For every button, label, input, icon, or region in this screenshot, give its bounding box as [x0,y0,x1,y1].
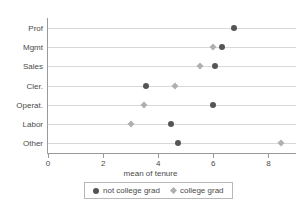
y-axis-category-label: Prof [0,24,43,33]
dot-chart: e mean of tenure not college gradcollege… [0,0,301,208]
y-axis-category-label: Operat. [0,101,43,110]
data-point-marker [231,25,237,31]
x-axis-label: mean of tenure [0,169,301,178]
y-axis-category-label: Labor [0,120,43,129]
x-axis-tick-mark [158,154,159,158]
legend-circle-icon [93,188,99,194]
x-axis-tick-mark [213,154,214,158]
x-axis-tick-label: 6 [211,159,215,168]
x-axis-tick-label: 8 [266,159,270,168]
legend-diamond-icon [170,187,177,194]
chart-legend: not college gradcollege grad [84,182,233,199]
data-point-marker [141,101,148,108]
data-point-marker [210,102,216,108]
x-axis-tick-mark [103,154,104,158]
plot-area [48,18,296,153]
x-axis-line [47,153,296,154]
data-point-marker [210,43,217,50]
gridline-row [48,28,296,29]
data-point-marker [212,63,218,69]
y-axis-category-label: Mgmt [0,43,43,52]
x-axis-tick-mark [48,154,49,158]
legend-entry[interactable]: college grad [171,186,224,195]
data-point-marker [196,63,203,70]
data-point-marker [277,140,284,147]
x-axis-tick-label: 4 [156,159,160,168]
gridline-row [48,105,296,106]
data-point-marker [219,44,225,50]
data-point-marker [143,83,149,89]
y-axis-category-label: Other [0,139,43,148]
y-axis-category-label: Sales [0,62,43,71]
gridline-row [48,66,296,67]
x-axis-tick-mark [268,154,269,158]
legend-label: college grad [180,186,224,195]
gridline-row [48,143,296,144]
legend-entry[interactable]: not college grad [93,186,160,195]
x-axis-tick-label: 0 [46,159,50,168]
legend-label: not college grad [103,186,160,195]
x-axis-tick-label: 2 [101,159,105,168]
data-point-marker [168,121,174,127]
data-point-marker [175,140,181,146]
y-axis-category-label: Cler. [0,82,43,91]
gridline-row [48,47,296,48]
data-point-marker [171,82,178,89]
data-point-marker [127,121,134,128]
